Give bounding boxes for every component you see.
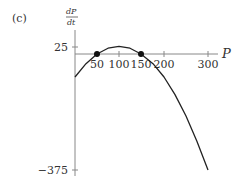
- equilibrium-point-50: [94, 51, 100, 57]
- equilibrium-point-150: [138, 51, 144, 57]
- x-tick-label-100: 100: [109, 58, 130, 71]
- y-tick-label-25: 25: [54, 41, 68, 54]
- y-axis-label-denominator: dt: [67, 18, 76, 27]
- y-axis-label-numerator: dP: [66, 7, 77, 16]
- x-tick-label-50: 50: [90, 58, 104, 71]
- panel-label: (c): [12, 12, 27, 25]
- chart: (c) dP dt 25 −375 50 100 150 200 300 P: [0, 0, 240, 188]
- x-axis-label: P: [221, 46, 231, 61]
- y-tick-label-neg375: −375: [38, 164, 68, 177]
- x-tick-label-300: 300: [198, 58, 219, 71]
